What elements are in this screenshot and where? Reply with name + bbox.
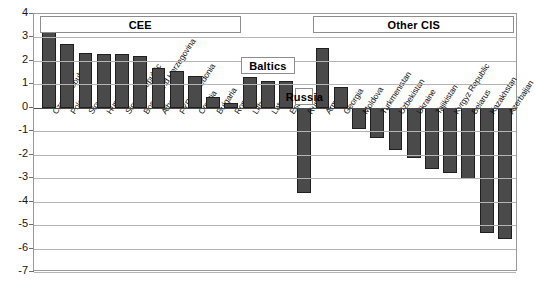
plot-area: Czech RepublicPolandSloveniaHungarySlova… (33, 13, 517, 271)
y-tick-label: -2 (6, 148, 28, 159)
y-tick-label: -4 (6, 195, 28, 206)
bar-azerbaijan (498, 108, 512, 239)
y-tick-label: -6 (6, 242, 28, 253)
group-label-russia: Russia (295, 88, 313, 105)
group-label-other-cis: Other CIS (313, 16, 514, 33)
y-tick-label: 0 (6, 101, 28, 112)
y-tick-label: -5 (6, 218, 28, 229)
y-tick-label: 1 (6, 77, 28, 88)
bar-tajikistan (425, 108, 439, 169)
y-tick-label: -1 (6, 124, 28, 135)
bar-slovak-republic (115, 54, 129, 108)
bar-bosnia-and-herzegovina (133, 56, 147, 108)
gridline--3 (34, 178, 516, 179)
bar-ukraine (407, 108, 421, 158)
gridline--1 (34, 131, 516, 132)
bar-kazakhstan (480, 108, 494, 233)
bar-kyrgyz-republic (443, 108, 457, 174)
bars-layer: Czech RepublicPolandSloveniaHungarySlova… (34, 14, 516, 270)
group-label-cee: CEE (40, 16, 241, 33)
group-label-baltics: Baltics (241, 57, 296, 74)
bar-poland (60, 44, 74, 107)
bar-czech-republic (42, 29, 56, 108)
y-tick-label: 4 (6, 7, 28, 18)
gridline--4 (34, 202, 516, 203)
y-tick-label: 3 (6, 30, 28, 41)
bar-russia (297, 108, 311, 194)
y-tick-label: -7 (6, 265, 28, 276)
bar-belarus (461, 108, 475, 180)
gridline-1 (34, 84, 516, 85)
gridline--6 (34, 249, 516, 250)
bar-hungary (97, 54, 111, 108)
y-tick-label: 2 (6, 54, 28, 65)
gridline--2 (34, 155, 516, 156)
gridline-0 (34, 108, 516, 109)
gridline-3 (34, 37, 516, 38)
bar-uzbekistan (389, 108, 403, 150)
y-tick-label: -3 (6, 171, 28, 182)
gridline--5 (34, 225, 516, 226)
gridline--7 (34, 272, 516, 273)
